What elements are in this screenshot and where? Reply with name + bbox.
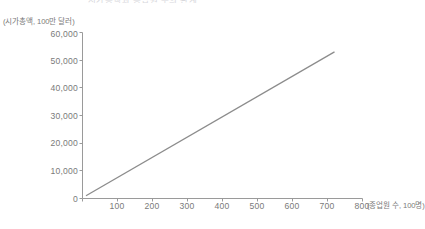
chart-container: 시가총액과 종업원 수의 관계 (시가총액, 100만 달러) 60,000 5… xyxy=(0,0,425,229)
plot-area xyxy=(0,0,425,229)
trend-line xyxy=(86,52,335,196)
